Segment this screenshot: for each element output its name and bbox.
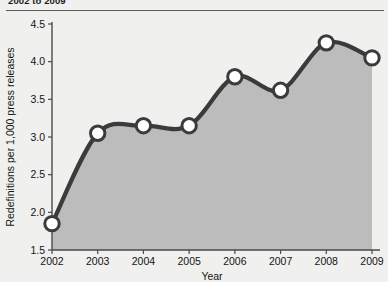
x-tick-label: 2003 bbox=[86, 255, 110, 267]
data-point-marker bbox=[91, 126, 105, 140]
y-tick-label: 4.5 bbox=[30, 18, 45, 30]
x-axis-title: Year bbox=[201, 270, 223, 282]
data-point-marker bbox=[45, 216, 59, 230]
y-tick-label: 3.0 bbox=[30, 131, 45, 143]
data-point-marker bbox=[228, 70, 242, 84]
data-point-marker bbox=[319, 36, 333, 50]
y-tick-label: 2.0 bbox=[30, 206, 45, 218]
x-tick-label: 2006 bbox=[223, 255, 247, 267]
y-tick-label: 2.5 bbox=[30, 168, 45, 180]
chart-figure: 2002 to 2009 1.52.02.53.03.54.04.5200220… bbox=[0, 0, 388, 282]
x-tick-label: 2009 bbox=[360, 255, 384, 267]
data-point-marker bbox=[365, 51, 379, 65]
data-point-marker bbox=[136, 119, 150, 133]
x-tick-label: 2004 bbox=[132, 255, 156, 267]
x-tick-label: 2002 bbox=[40, 255, 64, 267]
y-tick-label: 4.0 bbox=[30, 55, 45, 67]
x-tick-label: 2005 bbox=[177, 255, 201, 267]
y-tick-label: 1.5 bbox=[30, 244, 45, 256]
x-tick-label: 2008 bbox=[315, 255, 339, 267]
data-point-marker bbox=[182, 119, 196, 133]
data-point-marker bbox=[273, 83, 287, 97]
y-axis-title: Redefinitions per 1,000 press releases bbox=[4, 47, 16, 226]
area-chart: 1.52.02.53.03.54.04.52002200320042005200… bbox=[0, 0, 388, 282]
y-tick-label: 3.5 bbox=[30, 93, 45, 105]
x-tick-label: 2007 bbox=[269, 255, 293, 267]
